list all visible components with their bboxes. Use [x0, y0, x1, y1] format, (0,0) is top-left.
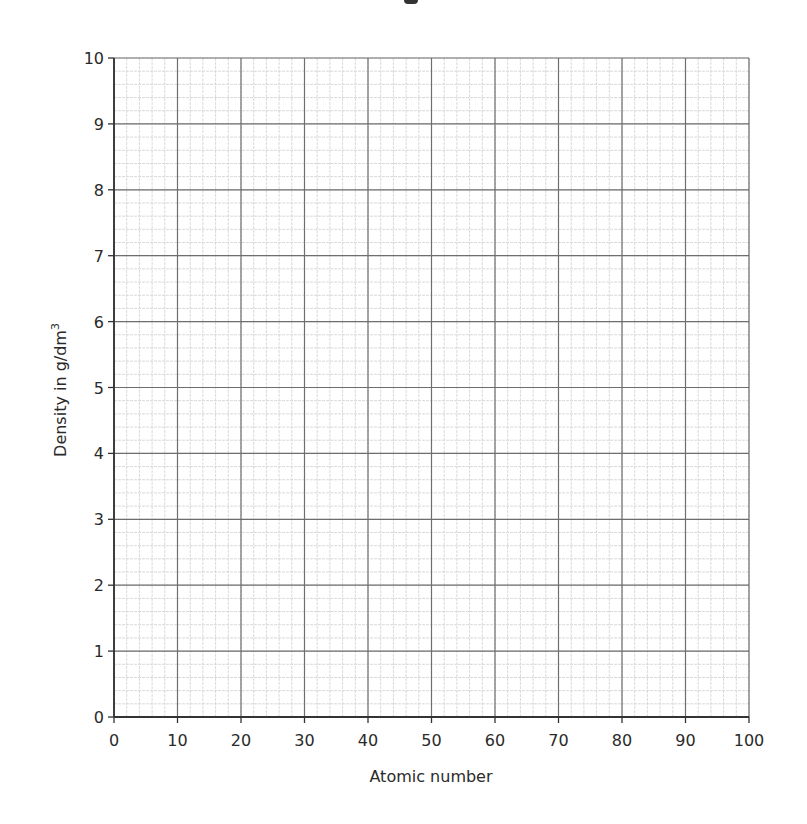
major-grid — [114, 58, 749, 717]
y-tick-label: 8 — [94, 181, 104, 200]
x-tick-label: 30 — [294, 731, 314, 750]
x-tick-label: 0 — [109, 731, 119, 750]
y-tick-label: 0 — [94, 708, 104, 727]
y-axis-ticks: 012345678910 — [84, 49, 114, 727]
y-tick-label: 1 — [94, 642, 104, 661]
x-tick-label: 100 — [734, 731, 765, 750]
y-tick-label: 10 — [84, 49, 104, 68]
y-tick-label: 6 — [94, 313, 104, 332]
y-axis-label: Density in g/dm3 — [49, 323, 70, 457]
y-tick-label: 4 — [94, 444, 104, 463]
x-tick-label: 10 — [167, 731, 187, 750]
x-tick-label: 90 — [675, 731, 695, 750]
density-chart: 0102030405060708090100 012345678910 Atom… — [0, 0, 807, 824]
x-axis-label: Atomic number — [369, 767, 493, 786]
y-tick-label: 7 — [94, 247, 104, 266]
y-tick-label: 3 — [94, 510, 104, 529]
x-tick-label: 50 — [421, 731, 441, 750]
x-tick-label: 60 — [485, 731, 505, 750]
x-tick-label: 80 — [612, 731, 632, 750]
x-tick-label: 20 — [231, 731, 251, 750]
x-tick-label: 70 — [548, 731, 568, 750]
x-axis-ticks: 0102030405060708090100 — [109, 717, 764, 750]
y-tick-label: 5 — [94, 379, 104, 398]
x-tick-label: 40 — [358, 731, 378, 750]
y-tick-label: 9 — [94, 115, 104, 134]
y-tick-label: 2 — [94, 576, 104, 595]
